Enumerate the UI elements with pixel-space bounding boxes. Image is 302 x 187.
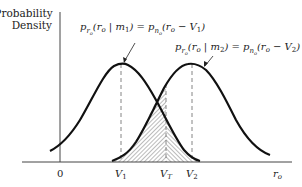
origin-label: 0	[57, 168, 63, 179]
v2-label: V2	[186, 168, 198, 181]
curve2-equation-label: pro(ro | m2) = pno(ro − V2)	[175, 41, 300, 56]
y-axis-label: Probability Density	[0, 7, 56, 31]
curve1-equation-label: pro(ro | m1) = pno(ro − V1)	[80, 21, 205, 36]
vt-label: VT	[160, 168, 173, 181]
curve2-leader-arrow	[204, 56, 213, 67]
probability-density-diagram: Probability Density pro(ro | m1) = pno(r…	[0, 0, 302, 187]
x-axis-label: ro	[273, 168, 282, 181]
curve1-leader-arrow	[123, 43, 135, 63]
v1-label: V1	[115, 168, 127, 181]
